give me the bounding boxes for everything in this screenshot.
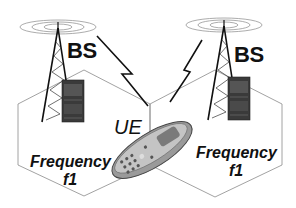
tower-left-icon [20,20,96,122]
freq-left-label: Frequency f1 [30,154,110,188]
radio-link-left-icon [97,36,148,106]
bs-left-label: BS [67,40,97,62]
freq-right-line1: Frequency [196,145,276,161]
freq-left-line2: f1 [30,172,110,188]
tower-right-icon [186,18,262,120]
cabinet-left-icon [62,80,84,122]
ue-label: UE [114,117,142,137]
freq-left-line1: Frequency [30,154,110,170]
cabinet-right-icon [228,77,250,120]
freq-right-line2: f1 [196,163,276,179]
radio-link-right-icon [170,40,202,102]
freq-right-label: Frequency f1 [196,145,276,179]
bs-right-label: BS [234,44,264,66]
